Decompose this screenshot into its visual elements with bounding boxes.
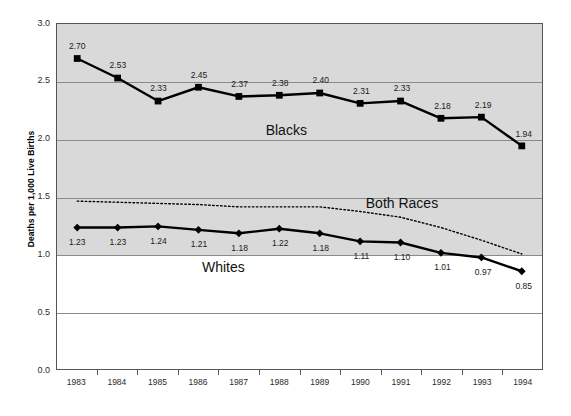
x-axis-tick-labels: 1983198419851986198719881989199019911992… <box>56 377 543 397</box>
data-point-marker <box>154 223 162 231</box>
y-tick-label: 2.0 <box>22 134 50 143</box>
data-point-marker <box>357 100 364 107</box>
data-point-label: 1.94 <box>515 130 532 139</box>
x-tick-mark <box>421 370 422 375</box>
data-point-marker <box>437 249 445 257</box>
data-point-marker <box>518 267 526 275</box>
x-tick-label: 1989 <box>310 377 329 387</box>
x-tick-label: 1994 <box>513 377 532 387</box>
data-point-marker <box>235 229 243 237</box>
data-point-label: 2.53 <box>110 61 127 70</box>
data-point-label: 2.18 <box>434 102 451 111</box>
x-tick-label: 1991 <box>391 377 410 387</box>
x-tick-label: 1983 <box>67 377 86 387</box>
y-axis-tick-labels: 0.00.51.01.52.02.53.0 <box>22 0 50 416</box>
data-point-label: 1.01 <box>434 263 451 272</box>
series-annotation-blacks: Blacks <box>266 122 307 138</box>
data-point-marker <box>397 98 404 105</box>
data-point-label: 1.18 <box>313 244 330 253</box>
data-point-label: 2.33 <box>394 84 411 93</box>
data-point-marker <box>195 226 203 234</box>
data-point-label: 1.10 <box>394 253 411 262</box>
data-point-label: 1.24 <box>150 237 167 246</box>
x-tick-mark <box>137 370 138 375</box>
x-tick-mark <box>502 370 503 375</box>
data-point-label: 2.45 <box>191 71 208 80</box>
data-point-label: 2.31 <box>353 87 370 96</box>
data-point-marker <box>155 98 162 105</box>
infant-mortality-line-chart: Deaths per 1,000 Live Births 0.00.51.01.… <box>0 0 571 416</box>
x-tick-label: 1984 <box>107 377 126 387</box>
data-point-marker <box>518 143 525 150</box>
x-tick-mark <box>218 370 219 375</box>
x-tick-mark <box>381 370 382 375</box>
series-annotation-whites: Whites <box>202 259 245 275</box>
x-tick-mark <box>178 370 179 375</box>
data-point-label: 1.21 <box>191 240 208 249</box>
plot-area: 2.702.532.332.452.372.382.402.312.332.18… <box>56 23 543 370</box>
data-point-label: 2.19 <box>475 101 492 110</box>
x-tick-label: 1992 <box>432 377 451 387</box>
x-tick-mark <box>462 370 463 375</box>
data-point-marker <box>114 75 121 82</box>
data-point-label: 2.37 <box>231 80 248 89</box>
series-line-whites <box>77 226 522 271</box>
data-point-label: 1.22 <box>272 239 289 248</box>
x-tick-mark <box>300 370 301 375</box>
data-point-marker <box>316 90 323 97</box>
data-point-label: 2.38 <box>272 79 289 88</box>
data-point-label: 0.97 <box>475 268 492 277</box>
data-point-marker <box>477 254 485 262</box>
x-tick-mark <box>340 370 341 375</box>
data-point-label: 1.18 <box>231 244 248 253</box>
data-point-marker <box>114 224 122 232</box>
data-point-label: 2.40 <box>313 76 330 85</box>
x-tick-label: 1985 <box>148 377 167 387</box>
data-point-marker <box>275 225 283 233</box>
data-point-marker <box>316 229 324 237</box>
data-point-marker <box>478 114 485 121</box>
x-tick-mark <box>97 370 98 375</box>
data-point-marker <box>74 55 81 62</box>
data-point-label: 2.33 <box>150 84 167 93</box>
y-tick-label: 0.0 <box>22 366 50 375</box>
y-tick-label: 0.5 <box>22 308 50 317</box>
data-point-marker <box>235 93 242 100</box>
x-tick-label: 1986 <box>189 377 208 387</box>
x-tick-label: 1988 <box>270 377 289 387</box>
data-point-label: 1.23 <box>69 238 86 247</box>
data-point-label: 1.11 <box>353 252 369 261</box>
data-point-label: 1.23 <box>110 238 127 247</box>
x-tick-mark <box>259 370 260 375</box>
y-tick-label: 2.5 <box>22 76 50 85</box>
x-tick-label: 1987 <box>229 377 248 387</box>
data-point-marker <box>276 92 283 99</box>
x-tick-label: 1993 <box>473 377 492 387</box>
data-point-label: 0.85 <box>515 282 532 291</box>
data-point-marker <box>195 84 202 91</box>
series-layer <box>57 24 542 369</box>
series-annotation-both-races: Both Races <box>366 195 438 211</box>
y-tick-label: 1.5 <box>22 192 50 201</box>
data-point-marker <box>397 239 405 247</box>
data-point-label: 2.70 <box>69 42 86 51</box>
y-tick-label: 3.0 <box>22 19 50 28</box>
x-tick-label: 1990 <box>351 377 370 387</box>
data-point-marker <box>356 237 364 245</box>
data-point-marker <box>73 224 81 232</box>
data-point-marker <box>438 115 445 122</box>
y-tick-label: 1.0 <box>22 250 50 259</box>
